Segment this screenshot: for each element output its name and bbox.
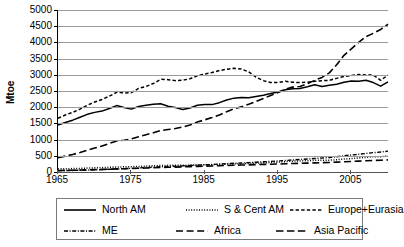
y-tick-mark [54, 140, 58, 141]
x-tick-mark [277, 170, 278, 174]
y-tick-mark [54, 10, 58, 11]
plot-region: Mtoe 05001000150020002500300035004000450… [0, 0, 394, 190]
x-axis-tick-labels: 19651975198519952005 [57, 174, 387, 190]
y-tick-mark [54, 123, 58, 124]
x-tick-label: 1985 [193, 174, 215, 186]
y-tick-label: 4000 [18, 37, 52, 47]
x-axis-line [58, 172, 388, 173]
legend-row: North AMS & Cent AMEurope+Eurasia [57, 199, 362, 220]
y-tick-label: 1000 [18, 135, 52, 145]
legend-swatch-europe-eurasia [289, 205, 323, 215]
gridline [58, 10, 388, 11]
y-axis-title: Mtoe [2, 62, 18, 122]
legend-item-asia-pacific[interactable]: Asia Pacific [275, 220, 368, 241]
x-tick-label: 1995 [266, 174, 288, 186]
legend-row: MEAfricaAsia Pacific [57, 220, 362, 241]
legend-item-africa[interactable]: Africa [175, 220, 241, 241]
gridline [58, 107, 388, 108]
y-axis-tick-labels: 0500100015002000250030003500400045005000 [18, 10, 52, 172]
legend-swatch-north-am [63, 205, 97, 215]
y-tick-label: 3000 [18, 70, 52, 80]
y-tick-label: 2000 [18, 102, 52, 112]
y-tick-label: 2500 [18, 86, 52, 96]
legend-label: Europe+Eurasia [323, 204, 404, 215]
legend-swatch-africa [175, 226, 209, 236]
gridline [58, 140, 388, 141]
legend-item-europe-eurasia[interactable]: Europe+Eurasia [289, 199, 404, 220]
y-tick-mark [54, 26, 58, 27]
gridline [58, 91, 388, 92]
series-line-north-am [58, 80, 388, 125]
y-tick-mark [54, 42, 58, 43]
legend-item-me[interactable]: ME [63, 220, 118, 241]
y-tick-mark [54, 75, 58, 76]
legend-item-north-am[interactable]: North AM [63, 199, 146, 220]
legend-swatch-s-cent-am [185, 205, 219, 215]
gridline [58, 26, 388, 27]
plot-area [57, 10, 388, 172]
legend-label: ME [97, 225, 118, 236]
x-tick-label: 1965 [46, 174, 68, 186]
legend-label: S & Cent AM [219, 204, 284, 215]
y-tick-mark [54, 156, 58, 157]
y-tick-mark [54, 59, 58, 60]
y-tick-mark [54, 107, 58, 108]
series-line-europe-eurasia [58, 68, 388, 118]
gridline [58, 75, 388, 76]
legend-item-s-cent-am[interactable]: S & Cent AM [185, 199, 284, 220]
legend-label: Africa [209, 225, 241, 236]
x-tick-label: 1975 [119, 174, 141, 186]
y-tick-label: 5000 [18, 5, 52, 15]
y-tick-label: 1500 [18, 118, 52, 128]
legend-label: Asia Pacific [309, 225, 368, 236]
gridline [58, 59, 388, 60]
gridline [58, 156, 388, 157]
x-tick-mark [204, 170, 205, 174]
legend-swatch-me [63, 226, 97, 236]
legend-label: North AM [97, 204, 146, 215]
y-tick-label: 4500 [18, 21, 52, 31]
y-tick-label: 3500 [18, 54, 52, 64]
legend: North AMS & Cent AMEurope+EurasiaMEAfric… [56, 198, 363, 240]
y-tick-mark [54, 91, 58, 92]
x-tick-mark [350, 170, 351, 174]
x-tick-label: 2005 [339, 174, 361, 186]
y-tick-label: 500 [18, 151, 52, 161]
x-tick-mark [57, 170, 58, 174]
gridline [58, 42, 388, 43]
x-tick-mark [130, 170, 131, 174]
gridline [58, 123, 388, 124]
legend-swatch-asia-pacific [275, 226, 309, 236]
